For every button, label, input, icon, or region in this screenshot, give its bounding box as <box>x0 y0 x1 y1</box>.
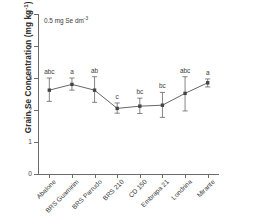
x-axis-line <box>38 174 219 175</box>
y-tick-label-3: 3 <box>28 74 32 81</box>
significance-letter-7: a <box>206 69 210 76</box>
y-tick-label-2: 2 <box>28 106 32 113</box>
y-tick-label-0: 0 <box>28 170 32 177</box>
data-point-group-7 <box>205 79 210 87</box>
significance-letter-6: abc <box>180 67 190 74</box>
significance-letter-3: c <box>116 93 119 100</box>
x-tick-label-6: Londrina <box>170 178 193 201</box>
y-tick-label-4: 4 <box>28 42 32 49</box>
data-point-group-1 <box>69 78 74 90</box>
data-marker-1 <box>70 83 73 86</box>
data-marker-4 <box>138 104 141 107</box>
data-marker-5 <box>161 104 164 107</box>
chart-figure: Grain Se Concentration (mg kg-1) 012345 … <box>0 0 261 223</box>
significance-letter-0: abc <box>44 68 54 75</box>
y-tick-label-1: 1 <box>28 138 32 145</box>
data-marker-7 <box>206 81 209 84</box>
x-tick-label-layer: AbaloneBRS GuamirimBRS ParrudoBRS 210CD … <box>38 178 219 223</box>
data-marker-6 <box>183 92 186 95</box>
data-marker-0 <box>48 88 51 91</box>
y-axis-title-text: Grain Se Concentration (mg kg <box>24 10 33 133</box>
significance-letter-1: a <box>70 68 74 75</box>
x-tick-label-4: CD 150 <box>127 178 148 199</box>
significance-letter-5: bc <box>159 82 166 89</box>
x-tick-label-0: Abalone <box>35 178 57 200</box>
significance-letter-2: ab <box>91 67 98 74</box>
data-marker-2 <box>93 88 96 91</box>
x-tick-label-7: Mirante <box>195 178 216 199</box>
significance-letter-4: bc <box>136 88 143 95</box>
y-tick-0: 0 <box>34 174 39 175</box>
x-tick-label-3: BRS 210 <box>102 178 126 202</box>
y-tick-label-5: 5 <box>28 10 32 17</box>
y-axis-title-exponent: -1 <box>23 4 29 10</box>
y-axis-title-tail: ) <box>24 1 33 4</box>
series-graphic <box>38 14 219 174</box>
data-marker-3 <box>115 107 118 110</box>
plot-area: 012345 0.5 mg Se dm-3 abcaabcbcbcabca <box>38 14 219 174</box>
series-line <box>49 83 207 109</box>
